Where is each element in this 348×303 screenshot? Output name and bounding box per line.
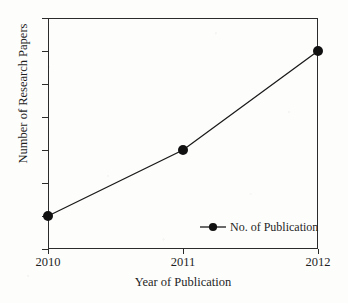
y-tick-mark (42, 150, 48, 151)
chart-page: 01234567 Number of Research Papers 20102… (0, 0, 348, 303)
x-tick-mark (318, 249, 319, 254)
y-axis-title: Number of Research Papers (16, 9, 31, 179)
legend: No. of Publication (200, 221, 318, 233)
x-tick-mark (48, 249, 49, 254)
y-tick-mark (42, 216, 48, 217)
y-tick-mark (42, 183, 48, 184)
y-tick-mark (42, 18, 48, 19)
y-tick-mark (42, 117, 48, 118)
y-tick-mark (42, 51, 48, 52)
legend-marker-icon (200, 221, 226, 233)
x-tick-mark (183, 249, 184, 254)
x-tick-label: 2010 (18, 255, 78, 270)
legend-entry-label: No. of Publication (230, 221, 318, 233)
y-tick-mark (42, 84, 48, 85)
x-axis-title: Year of Publication (48, 275, 318, 290)
x-tick-label: 2012 (288, 255, 348, 270)
x-tick-label: 2011 (153, 255, 213, 270)
